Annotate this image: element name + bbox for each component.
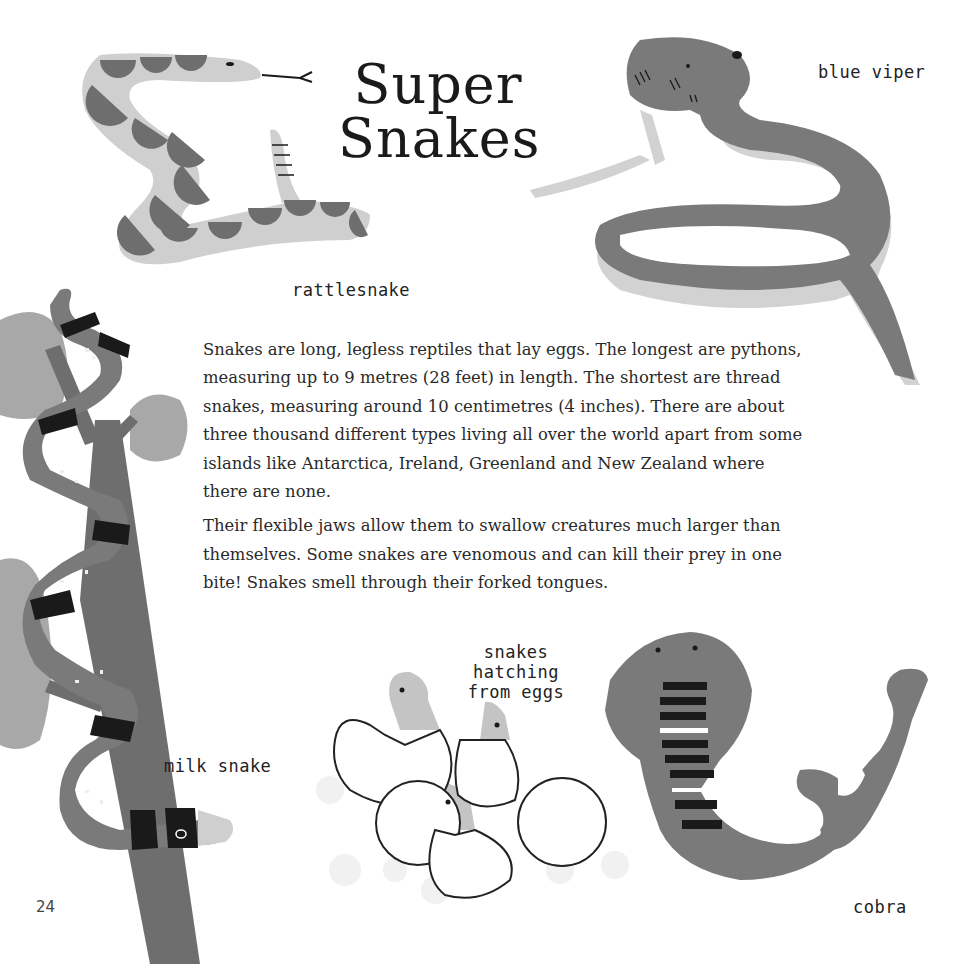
body-text: Snakes are long, legless reptiles that l…	[203, 336, 813, 604]
label-hatching-line-1: snakes hatching	[446, 642, 586, 682]
page-number: 24	[36, 898, 55, 916]
paragraph-2: Their flexible jaws allow them to swallo…	[203, 512, 813, 597]
label-hatching-line-2: from eggs	[446, 682, 586, 702]
page-title: Super Snakes	[338, 58, 538, 166]
cobra	[605, 632, 928, 880]
label-rattlesnake: rattlesnake	[292, 280, 410, 300]
label-blue-viper: blue viper	[818, 62, 925, 82]
label-hatching: snakes hatching from eggs	[446, 642, 586, 702]
rattlesnake	[82, 53, 370, 264]
title-line-1: Super	[338, 58, 538, 112]
label-milk-snake: milk snake	[164, 756, 271, 776]
paragraph-1: Snakes are long, legless reptiles that l…	[203, 336, 813, 506]
title-line-2: Snakes	[338, 112, 538, 166]
hatching-eggs	[316, 672, 629, 904]
blue-viper	[530, 37, 920, 385]
book-page: Super Snakes rattlesnake blue viper milk…	[0, 0, 955, 964]
label-cobra: cobra	[853, 897, 907, 917]
